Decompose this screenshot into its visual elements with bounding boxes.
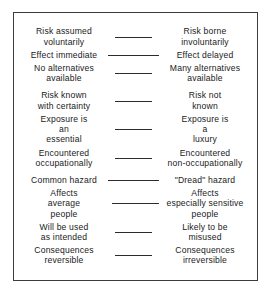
diagram-frame: Risk assumed voluntarilyRisk borne invol… — [13, 12, 258, 281]
pole-left-reversibility: Consequences reversible — [20, 245, 108, 265]
pole-left-sensitivity: Affects average people — [20, 188, 108, 219]
pole-left-timing: Effect immediate — [20, 50, 108, 60]
continuum-row-sensitivity: Affects average peopleAffects especially… — [20, 188, 251, 219]
connector-rule — [108, 55, 159, 56]
connector-rule — [115, 158, 152, 159]
continuum-row-reversibility: Consequences reversibleConsequences irre… — [20, 245, 251, 265]
pole-left-misuse: Will be used as intended — [20, 222, 108, 242]
connector-line-dread — [108, 175, 159, 185]
connector-line-sensitivity — [108, 198, 159, 208]
connector-line-reversibility — [108, 250, 159, 260]
pole-right-certainty: Risk not known — [159, 90, 251, 110]
connector-line-alternatives — [108, 68, 159, 78]
figure-root: Risk assumed voluntarilyRisk borne invol… — [0, 0, 272, 295]
continuum-row-occupational: Encountered occupationallyEncountered no… — [20, 148, 251, 168]
pole-left-occupational: Encountered occupationally — [20, 148, 108, 168]
continuum-row-dread: Common hazard"Dread" hazard — [20, 175, 251, 185]
pole-right-occupational: Encountered non-occupationally — [159, 148, 251, 168]
connector-line-voluntariness — [108, 32, 159, 42]
pole-left-necessity: Exposure is an essential — [20, 114, 108, 145]
connector-rule — [115, 37, 152, 38]
connector-line-necessity — [108, 124, 159, 134]
continuum-row-misuse: Will be used as intendedLikely to be mis… — [20, 222, 251, 242]
connector-rule — [112, 203, 159, 204]
connector-rule — [115, 73, 152, 74]
connector-line-occupational — [108, 153, 159, 163]
connector-rule — [115, 232, 152, 233]
connector-rule — [115, 129, 152, 130]
connector-line-timing — [108, 50, 159, 60]
continuum-row-certainty: Risk known with certaintyRisk not known — [20, 90, 251, 110]
continuum-row-list: Risk assumed voluntarilyRisk borne invol… — [14, 13, 257, 280]
pole-left-certainty: Risk known with certainty — [20, 90, 108, 110]
connector-rule — [108, 180, 159, 181]
pole-right-sensitivity: Affects especially sensitive people — [159, 188, 251, 219]
pole-right-reversibility: Consequences irreversible — [159, 245, 251, 265]
pole-right-timing: Effect delayed — [159, 50, 251, 60]
pole-left-alternatives: No alternatives available — [20, 63, 108, 83]
pole-right-necessity: Exposure is a luxury — [159, 114, 251, 145]
pole-right-dread: "Dread" hazard — [159, 175, 251, 185]
connector-rule — [115, 101, 152, 102]
continuum-row-necessity: Exposure is an essentialExposure is a lu… — [20, 114, 251, 145]
pole-right-voluntariness: Risk borne involuntarily — [159, 26, 251, 46]
continuum-row-voluntariness: Risk assumed voluntarilyRisk borne invol… — [20, 26, 251, 46]
pole-right-alternatives: Many alternatives available — [159, 63, 251, 83]
connector-line-misuse — [108, 227, 159, 237]
continuum-row-alternatives: No alternatives availableMany alternativ… — [20, 63, 251, 83]
continuum-row-timing: Effect immediateEffect delayed — [20, 50, 251, 60]
pole-left-voluntariness: Risk assumed voluntarily — [20, 26, 108, 46]
connector-rule — [115, 255, 152, 256]
pole-left-dread: Common hazard — [20, 175, 108, 185]
connector-line-certainty — [108, 96, 159, 106]
pole-right-misuse: Likely to be misused — [159, 222, 251, 242]
